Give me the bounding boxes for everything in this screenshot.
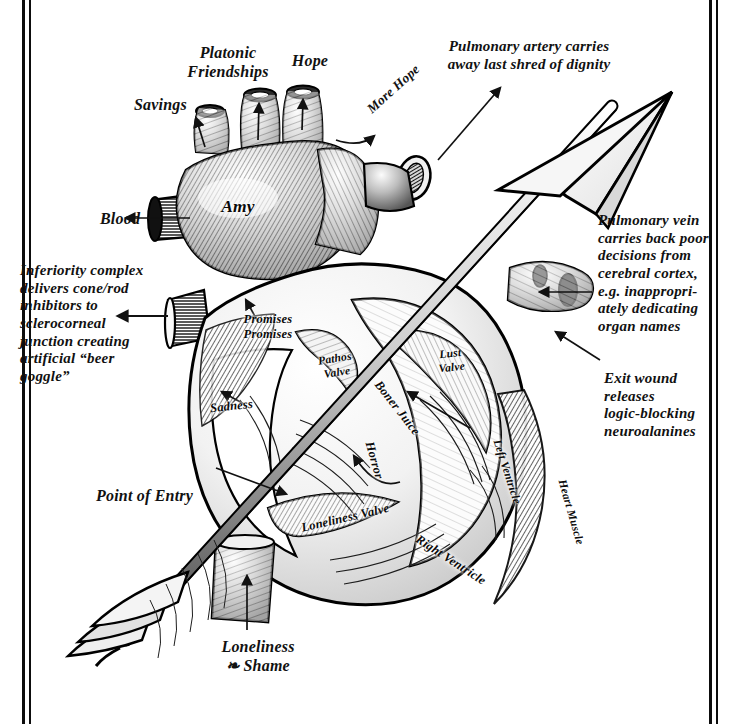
label-exit-wound: Exit wound releases logic-blocking neuro… [604,370,728,441]
label-savings: Savings [134,96,214,115]
label-point-of-entry: Point of Entry [96,487,206,506]
illustration-page: Platonic Friendships Hope Savings More H… [0,0,739,724]
label-pulmonary-vein: Pulmonary vein carries back poor decisio… [598,212,730,336]
label-hope: Hope [272,52,348,71]
inferior-vena-cava-stump [212,535,274,622]
label-loneliness-and-shame: Loneliness ❧ Shame [190,638,326,676]
label-blood: Blood [100,210,166,229]
label-platonic-friendships: Platonic Friendships [168,44,288,82]
pulmonary-vein-group [508,262,593,311]
label-inferiority-complex: Inferiority complex delivers cone/rod in… [20,262,172,386]
label-pulmonary-artery: Pulmonary artery carries away last shred… [424,38,634,73]
label-amy: Amy [208,196,268,217]
label-promises-promises: Promises Promises [225,312,311,342]
label-lust-valve: Lust Valve [424,344,479,376]
